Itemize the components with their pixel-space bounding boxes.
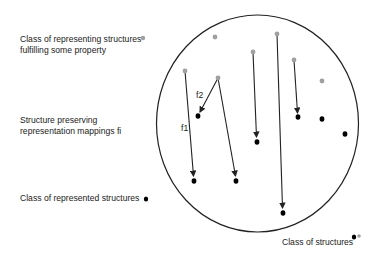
representing-point [292, 58, 297, 63]
represented-point [320, 116, 325, 122]
legend-structures-gray-dot [357, 234, 361, 238]
legend-structures-black-dot [352, 234, 356, 239]
arrow-label-f2: f2 [196, 90, 203, 100]
representing-point [251, 50, 256, 55]
legend-representing-dot [141, 36, 145, 40]
representing-point [320, 79, 325, 84]
arrow-6 [294, 60, 298, 113]
represented-point [281, 210, 286, 216]
represented-point [192, 178, 197, 184]
diagram-canvas: f2 f1 [0, 0, 379, 258]
arrow-4 [253, 52, 257, 137]
arrow-label-f1: f1 [181, 123, 188, 133]
representing-point [213, 35, 218, 40]
represented-point [234, 178, 239, 184]
represented-point [196, 113, 201, 119]
representing-point [275, 32, 280, 37]
representing-point [216, 76, 221, 81]
represented-point [296, 114, 301, 120]
arrow-3 [218, 78, 236, 176]
representing-point [183, 69, 188, 74]
arrow-5 [277, 34, 283, 208]
legend-represented-dot [144, 196, 148, 201]
represented-point [343, 131, 348, 137]
represented-point [255, 139, 260, 145]
